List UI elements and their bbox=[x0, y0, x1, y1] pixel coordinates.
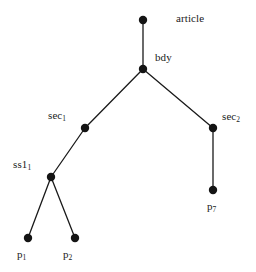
tree-node-sec2 bbox=[209, 124, 217, 132]
label-subscript-sec2: 2 bbox=[236, 115, 240, 124]
tree-node-label-p1: p1 bbox=[17, 249, 26, 260]
label-subscript-sec1: 1 bbox=[62, 114, 66, 123]
label-subscript-p1: 1 bbox=[23, 253, 27, 262]
tree-node-sec1 bbox=[81, 124, 89, 132]
tree-node-p7 bbox=[209, 186, 217, 194]
tree-node-label-article: article bbox=[176, 13, 204, 24]
tree-edge-bdy-to-sec2 bbox=[143, 69, 213, 128]
edge-layer bbox=[28, 20, 213, 238]
tree-node-ss11 bbox=[47, 173, 55, 181]
tree-edge-bdy-to-sec1 bbox=[85, 69, 143, 128]
node-layer bbox=[24, 16, 217, 242]
tree-edge-sec1-to-ss11 bbox=[51, 128, 85, 177]
tree-edge-ss11-to-p1 bbox=[28, 177, 51, 238]
label-subscript-p7: 7 bbox=[213, 205, 217, 214]
tree-node-label-p7: p7 bbox=[207, 201, 216, 212]
label-text-ss11: ss1 bbox=[13, 158, 27, 170]
label-text-p1: p bbox=[17, 248, 23, 260]
label-text-p2: p bbox=[63, 248, 69, 260]
tree-node-label-sec2: sec2 bbox=[222, 111, 240, 122]
tree-node-label-ss11: ss11 bbox=[13, 159, 31, 170]
tree-edge-ss11-to-p2 bbox=[51, 177, 75, 238]
tree-node-article bbox=[139, 16, 147, 24]
tree-graphics-canvas bbox=[0, 0, 256, 272]
tree-node-p1 bbox=[24, 234, 32, 242]
tree-node-bdy bbox=[139, 65, 147, 73]
tree-node-p2 bbox=[71, 234, 79, 242]
label-text-sec2: sec bbox=[222, 110, 236, 122]
tree-diagram: articlebdysec1sec2ss11p1p2p7 bbox=[0, 0, 256, 272]
label-text-p7: p bbox=[207, 200, 213, 212]
label-text-bdy: bdy bbox=[155, 51, 172, 63]
label-subscript-ss11: 1 bbox=[27, 163, 31, 172]
label-text-sec1: sec bbox=[48, 109, 62, 121]
tree-node-label-p2: p2 bbox=[63, 249, 72, 260]
tree-node-label-bdy: bdy bbox=[155, 52, 172, 63]
label-text-article: article bbox=[176, 12, 204, 24]
tree-node-label-sec1: sec1 bbox=[48, 110, 66, 121]
label-subscript-p2: 2 bbox=[69, 253, 73, 262]
